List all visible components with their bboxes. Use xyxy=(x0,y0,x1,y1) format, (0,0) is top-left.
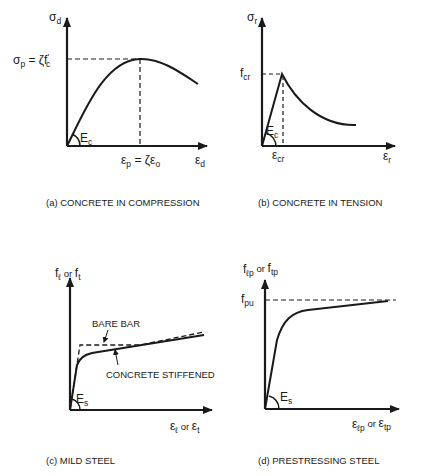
panel-b-concrete-tension: σr fcr Ec εcr εr (b) CONCRETE IN TENSION xyxy=(240,10,395,208)
ultimate-stress-label: fpu xyxy=(241,292,254,308)
panel-caption: (a) CONCRETE IN COMPRESSION xyxy=(46,197,200,208)
bare-bar-label: BARE BAR xyxy=(92,318,140,329)
modulus-label: Es xyxy=(280,390,292,406)
y-axis-label: fℓ or ft xyxy=(55,266,81,282)
panel-caption: (d) PRESTRESSING STEEL xyxy=(258,455,379,466)
panel-d-prestressing-steel: fℓp or ftp fpu Es εℓp or εtp (d) PRESTRE… xyxy=(241,261,399,466)
panel-a-concrete-compression: σd σp = ζf'c Ec εp = ζεo εd (a) CONCRETE… xyxy=(13,10,207,208)
panel-caption: (c) MILD STEEL xyxy=(46,455,115,466)
stress-strain-figure: σd σp = ζf'c Ec εp = ζεo εd (a) CONCRETE… xyxy=(0,0,433,476)
modulus-label: Es xyxy=(76,392,88,408)
x-axis-label: εℓ or εt xyxy=(170,419,200,435)
stiffened-pointer xyxy=(115,350,118,365)
crack-strain-label: εcr xyxy=(272,148,285,164)
modulus-label: Ec xyxy=(266,124,279,140)
x-axis-label: εr xyxy=(383,149,391,165)
panel-caption: (b) CONCRETE IN TENSION xyxy=(258,197,383,208)
peak-stress-label: σp = ζf'c xyxy=(13,52,51,69)
concrete-stiffened-label: CONCRETE STIFFENED xyxy=(106,369,215,380)
panel-c-mild-steel: fℓ or ft BARE BAR CONCRETE STIFFENED Es … xyxy=(46,266,215,466)
crack-stress-label: fcr xyxy=(240,66,251,82)
y-axis-label: σr xyxy=(247,10,257,26)
y-axis-label: σd xyxy=(49,10,61,26)
x-axis-label: εℓp or εtp xyxy=(352,416,391,433)
modulus-arc-icon xyxy=(269,396,279,409)
modulus-label: Ec xyxy=(80,131,93,147)
x-axis-label: εd xyxy=(195,153,205,169)
modulus-arc-icon xyxy=(72,134,80,146)
bare-bar-pointer xyxy=(104,330,108,342)
peak-strain-label: εp = ζεo xyxy=(121,153,160,169)
y-axis-label: fℓp or ftp xyxy=(243,261,278,278)
